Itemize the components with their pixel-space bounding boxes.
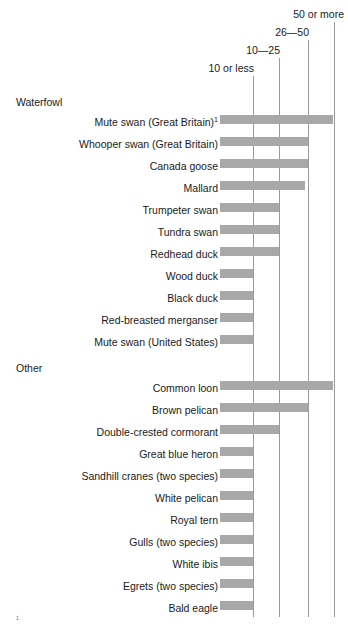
row-label-bald-eagle: Bald eagle (168, 602, 218, 614)
bar-white-pelican (220, 491, 253, 500)
chart-footnote: 1 (16, 617, 19, 625)
bar-mallard (220, 181, 305, 190)
plot-area: Waterfowl Mute swan (Great Britain)1 Who… (0, 0, 348, 625)
row-label-common-loon: Common loon (153, 382, 218, 394)
bar-wood-duck (220, 269, 253, 278)
row-label-mute-swan-great-britain: Mute swan (Great Britain)1 (94, 116, 218, 128)
row-label-text: White ibis (172, 558, 218, 570)
row-label-text: Common loon (153, 382, 218, 394)
row-label-wood-duck: Wood duck (166, 270, 218, 282)
row-label-double-crested-cormorant: Double-crested cormorant (97, 426, 218, 438)
row-label-text: Gulls (two species) (129, 536, 218, 548)
bar-red-breasted-merganser (220, 313, 253, 322)
bar-redhead-duck (220, 247, 279, 256)
row-label-text: Sandhill cranes (two species) (81, 470, 218, 482)
bar-tundra-swan (220, 225, 279, 234)
row-label-tundra-swan: Tundra swan (158, 226, 218, 238)
row-label-mute-swan-united-states: Mute swan (United States) (94, 336, 218, 348)
row-label-text: Canada goose (150, 160, 218, 172)
bar-canada-goose (220, 159, 308, 168)
row-label-text: Tundra swan (158, 226, 218, 238)
row-label-text: Mute swan (United States) (94, 336, 218, 348)
row-label-text: Red-breasted merganser (101, 314, 218, 326)
bar-white-ibis (220, 557, 253, 566)
row-label-black-duck: Black duck (167, 292, 218, 304)
row-label-text: Royal tern (170, 514, 218, 526)
row-label-text: Double-crested cormorant (97, 426, 218, 438)
row-label-text: Redhead duck (150, 248, 218, 260)
row-label-royal-tern: Royal tern (170, 514, 218, 526)
row-label-text: Mute swan (Great Britain) (94, 116, 214, 128)
bar-black-duck (220, 291, 253, 300)
section-title-waterfowl: Waterfowl (16, 96, 62, 108)
row-label-text: Mallard (184, 182, 218, 194)
row-label-mallard: Mallard (184, 182, 218, 194)
row-label-text: Black duck (167, 292, 218, 304)
chart-root: 10 or less 10—25 26—50 50 or more Waterf… (0, 0, 348, 625)
row-label-whooper-swan-great-britain: Whooper swan (Great Britain) (79, 138, 218, 150)
footnote-marker-symbol: 1 (16, 615, 19, 621)
bar-trumpeter-swan (220, 203, 279, 212)
bar-mute-swan-great-britain (220, 115, 333, 124)
row-label-white-ibis: White ibis (172, 558, 218, 570)
bar-mute-swan-united-states (220, 335, 253, 344)
section-title-other: Other (16, 362, 42, 374)
bar-whooper-swan-great-britain (220, 137, 308, 146)
row-label-brown-pelican: Brown pelican (152, 404, 218, 416)
bar-common-loon (220, 381, 333, 390)
row-label-text: White pelican (155, 492, 218, 504)
bar-double-crested-cormorant (220, 425, 279, 434)
bar-bald-eagle (220, 601, 253, 610)
bar-great-blue-heron (220, 447, 253, 456)
bar-sandhill-cranes (220, 469, 253, 478)
bar-brown-pelican (220, 403, 308, 412)
bar-royal-tern (220, 513, 253, 522)
row-label-white-pelican: White pelican (155, 492, 218, 504)
row-label-text: Brown pelican (152, 404, 218, 416)
row-label-red-breasted-merganser: Red-breasted merganser (101, 314, 218, 326)
bar-gulls (220, 535, 253, 544)
row-label-canada-goose: Canada goose (150, 160, 218, 172)
row-label-text: Great blue heron (139, 448, 218, 460)
row-label-text: Whooper swan (Great Britain) (79, 138, 218, 150)
row-label-egrets: Egrets (two species) (123, 580, 218, 592)
row-label-text: Egrets (two species) (123, 580, 218, 592)
row-label-great-blue-heron: Great blue heron (139, 448, 218, 460)
bar-egrets (220, 579, 253, 588)
row-label-gulls: Gulls (two species) (129, 536, 218, 548)
row-label-text: Trumpeter swan (143, 204, 218, 216)
row-label-trumpeter-swan: Trumpeter swan (143, 204, 218, 216)
row-label-text: Wood duck (166, 270, 218, 282)
row-label-sandhill-cranes: Sandhill cranes (two species) (81, 470, 218, 482)
row-label-redhead-duck: Redhead duck (150, 248, 218, 260)
footnote-marker: 1 (214, 116, 218, 123)
row-label-text: Bald eagle (168, 602, 218, 614)
